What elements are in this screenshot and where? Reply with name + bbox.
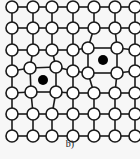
atom-node — [109, 22, 121, 34]
atom-node — [109, 1, 121, 13]
atom-node — [25, 86, 37, 98]
atom-node — [129, 108, 140, 120]
atom-node — [111, 67, 123, 79]
vacancy-dot — [98, 55, 108, 65]
atom-node — [109, 87, 121, 99]
atom-node — [6, 65, 18, 77]
atom-node — [6, 87, 18, 99]
atom-node — [129, 22, 140, 34]
atom-node — [129, 1, 140, 13]
atom-node — [88, 22, 100, 34]
atom-node — [46, 44, 58, 56]
atom-node — [67, 65, 79, 77]
atom-node — [88, 108, 100, 120]
atom-node — [6, 22, 18, 34]
atom-node — [67, 22, 79, 34]
atom-node — [46, 22, 58, 34]
atom-node — [82, 42, 94, 54]
atom-node — [111, 42, 123, 54]
atom-node — [46, 1, 58, 13]
atom-node — [88, 1, 100, 13]
atom-node — [129, 65, 140, 77]
atom-node — [67, 108, 79, 120]
atom-node — [109, 108, 121, 120]
atom-node — [88, 87, 100, 99]
atom-node — [6, 108, 18, 120]
atom-node — [67, 87, 79, 99]
atom-node — [129, 87, 140, 99]
atom-node — [27, 1, 39, 13]
vacancy-dot — [38, 75, 48, 85]
atom-node — [67, 1, 79, 13]
atom-node — [27, 108, 39, 120]
atom-node — [6, 44, 18, 56]
atom-node — [50, 86, 62, 98]
atom-node — [27, 44, 39, 56]
atom-node — [129, 44, 140, 56]
atom-node — [6, 1, 18, 13]
atom-node — [24, 62, 36, 74]
lattice-diagram — [0, 0, 140, 159]
atom-node — [46, 108, 58, 120]
atom-node — [67, 44, 79, 56]
figure-caption: b) — [0, 138, 140, 149]
atom-node — [82, 67, 94, 79]
atom-node — [50, 61, 62, 73]
atom-node — [27, 22, 39, 34]
